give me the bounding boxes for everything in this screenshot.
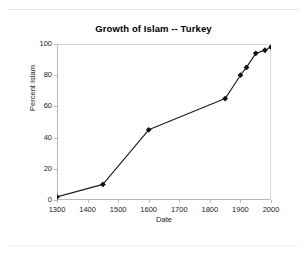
y-tick-mark [54, 44, 57, 45]
x-tick-mark [118, 200, 119, 203]
y-tick-label: 20 [18, 164, 52, 173]
y-tick-mark [54, 106, 57, 107]
y-tick-label: 100 [18, 39, 52, 48]
chart-figure: Growth of Islam -- Turkey 020406080100 1… [0, 0, 307, 255]
x-tick-mark [240, 200, 241, 203]
data-point-marker [57, 194, 60, 200]
data-point-marker [222, 96, 228, 102]
x-tick-mark [149, 200, 150, 203]
y-tick-mark [54, 75, 57, 76]
data-markers [57, 44, 271, 200]
data-line [57, 47, 271, 197]
y-axis-title: Percent Islam [28, 48, 37, 128]
y-axis-title-wrap: Percent Islam [28, 48, 40, 128]
data-point-marker [253, 50, 259, 56]
y-tick-mark [54, 169, 57, 170]
data-point-marker [268, 44, 271, 50]
chart-plot-svg [57, 44, 271, 200]
y-tick-label: 40 [18, 133, 52, 142]
top-divider [8, 9, 299, 10]
data-point-marker [262, 47, 268, 53]
x-tick-mark [88, 200, 89, 203]
y-tick-label: 0 [18, 195, 52, 204]
x-tick-mark [57, 200, 58, 203]
chart-title: Growth of Islam -- Turkey [0, 23, 307, 34]
x-axis-title: Date [57, 215, 271, 224]
x-tick-label: 2000 [251, 205, 291, 214]
x-tick-mark [210, 200, 211, 203]
x-tick-mark [179, 200, 180, 203]
y-tick-mark [54, 138, 57, 139]
x-tick-mark [271, 200, 272, 203]
bottom-divider [8, 245, 299, 246]
